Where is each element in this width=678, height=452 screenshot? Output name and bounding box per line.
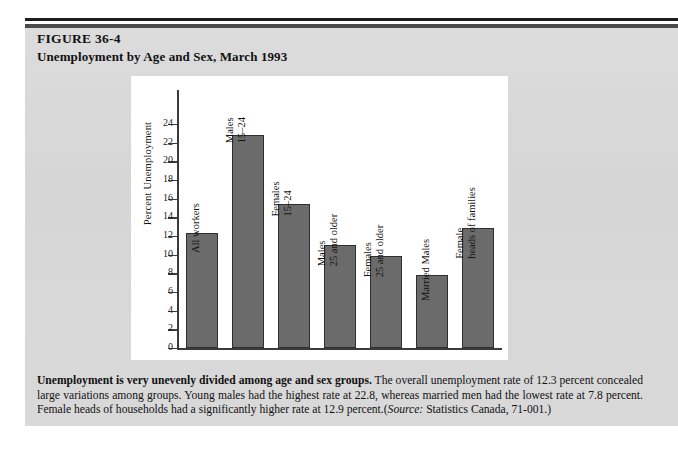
bar-label-line: Married Males xyxy=(420,239,432,301)
bar-label-line: 15–24 xyxy=(282,182,294,217)
y-tick-label: 0 xyxy=(168,341,173,352)
top-rule xyxy=(25,18,678,21)
bar-4: Females25 and older xyxy=(370,256,402,348)
bar-label-line: All workers xyxy=(190,203,202,253)
figure-root: FIGURE 36-4 Unemployment by Age and Sex,… xyxy=(0,0,678,452)
x-axis-line xyxy=(177,348,502,350)
bar-1: Males15–24 xyxy=(232,135,264,348)
bar-label-0: All workers xyxy=(190,203,202,253)
bar-label-1: Males15–24 xyxy=(224,117,248,143)
bar-0: All workers xyxy=(186,233,218,348)
caption-source-label: Source: xyxy=(388,403,424,416)
y-tick-label: 14 xyxy=(163,210,173,221)
bar-label-2: Females15–24 xyxy=(270,182,294,217)
figure-number: FIGURE 36-4 xyxy=(37,31,637,47)
y-tick-label: 12 xyxy=(163,229,173,240)
bar-label-line: Females xyxy=(362,224,374,277)
y-tick-label: 16 xyxy=(163,192,173,203)
bar-3: Males25 and older xyxy=(324,245,356,348)
bar-label-line: Males xyxy=(224,117,236,143)
bar-label-line: Females xyxy=(270,182,282,217)
y-tick-label: 4 xyxy=(168,304,173,315)
bar-label-4: Females25 and older xyxy=(362,224,386,277)
panel-top-shadow xyxy=(25,24,678,28)
y-tick-label: 22 xyxy=(163,136,173,147)
bar-label-line: Males xyxy=(316,214,328,267)
y-tick-label: 20 xyxy=(163,154,173,165)
y-tick-label: 2 xyxy=(168,322,173,333)
bar-label-line: Female xyxy=(454,187,466,259)
bar-label-line: 25 and older xyxy=(374,224,386,277)
bar-label-5: Married Males xyxy=(420,239,432,301)
figure-title: Unemployment by Age and Sex, March 1993 xyxy=(37,48,637,65)
y-tick-label: 18 xyxy=(163,173,173,184)
bar-label-line: 15–24 xyxy=(236,117,248,143)
bar-label-line: 25 and older xyxy=(328,214,340,267)
bar-label-6: Femaleheads of families xyxy=(454,187,478,259)
bar-series: All workersMales15–24Females15–24Males25… xyxy=(179,76,501,348)
bar-label-line: heads of families xyxy=(466,187,478,259)
chart-panel: 024681012141618202224 Percent Unemployme… xyxy=(131,76,508,360)
bar-6: Femaleheads of families xyxy=(462,228,494,348)
y-tick-label: 6 xyxy=(168,285,173,296)
figure-header: FIGURE 36-4 Unemployment by Age and Sex,… xyxy=(37,31,637,65)
y-tick-label: 8 xyxy=(168,266,173,277)
caption-lead: Unemployment is very unevenly divided am… xyxy=(37,374,372,387)
figure-caption: Unemployment is very unevenly divided am… xyxy=(37,374,643,418)
bar-label-3: Males25 and older xyxy=(316,214,340,267)
y-tick-label: 24 xyxy=(163,117,173,128)
y-tick-label: 10 xyxy=(163,248,173,259)
y-axis-label: Percent Unemployment xyxy=(142,109,153,239)
bar-5: Married Males xyxy=(416,275,448,348)
bar-2: Females15–24 xyxy=(278,204,310,348)
caption-source-text: Statistics Canada, 71-001.) xyxy=(423,403,551,416)
